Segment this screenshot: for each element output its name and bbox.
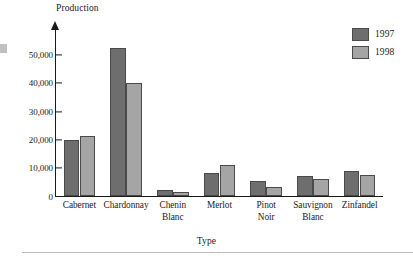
y-axis-tick-mark — [56, 168, 62, 169]
x-axis-category-label: Zinfandel — [324, 200, 396, 212]
legend-swatch-1997 — [352, 28, 369, 41]
y-axis-tick-mark — [56, 83, 62, 84]
y-axis-tick-mark — [56, 54, 62, 55]
legend-swatch-1998 — [352, 46, 369, 59]
y-axis-tick-mark — [56, 139, 62, 140]
legend-entry-1998: 1998 — [352, 43, 394, 61]
wine-production-bar-chart-figure: Production Type 010,00020,00030,00040,00… — [0, 0, 413, 258]
legend-entry-1997: 1997 — [352, 25, 394, 43]
chart-legend: 1997 1998 — [352, 25, 394, 61]
y-axis-tick-mark — [56, 111, 62, 112]
legend-label-1997: 1997 — [375, 29, 394, 39]
legend-label-1998: 1998 — [375, 47, 394, 57]
